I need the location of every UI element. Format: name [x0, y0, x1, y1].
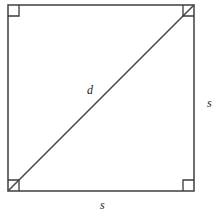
diagonal-line [8, 5, 194, 191]
side-label-bottom-s: s [100, 199, 105, 211]
side-label-right-s: s [207, 97, 212, 109]
right-angle-marker-top-left [8, 5, 19, 16]
right-angle-marker-bottom-right [183, 180, 194, 191]
geometry-figure-canvas: d s s [0, 0, 224, 224]
diagonal-label-d: d [87, 84, 93, 96]
geometry-diagram-svg [0, 0, 224, 224]
